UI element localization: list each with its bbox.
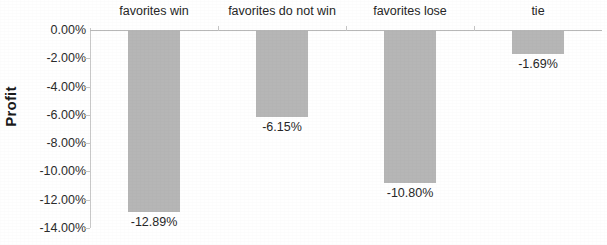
x-axis-tick-mark (474, 26, 475, 31)
bar (384, 30, 436, 183)
y-axis-tick-mark (85, 115, 90, 116)
y-axis-tick-label: -8.00% (12, 136, 86, 150)
y-axis-tick-label: -10.00% (12, 164, 86, 178)
y-axis-tick-mark (85, 87, 90, 88)
y-axis-tick-label: -6.00% (12, 108, 86, 122)
category-label: favorites do not win (228, 4, 336, 18)
category-label: favorites lose (373, 4, 447, 18)
bar-value-label: -12.89% (131, 215, 178, 229)
y-axis-tick-mark (85, 228, 90, 229)
y-axis-tick-label: 0.00% (12, 23, 86, 37)
plot-area: favorites win-12.89%favorites do not win… (90, 30, 602, 228)
y-axis-tick-label: -4.00% (12, 80, 86, 94)
x-axis-tick-mark (218, 26, 219, 31)
y-axis-tick-mark (85, 200, 90, 201)
x-axis-tick-mark (346, 26, 347, 31)
bar-value-label: -10.80% (387, 186, 434, 200)
bar-value-label: -6.15% (262, 120, 302, 134)
y-axis-tick-mark (85, 58, 90, 59)
bar-chart-figure: Profit 0.00%-2.00%-4.00%-6.00%-8.00%-10.… (0, 0, 607, 245)
bar-value-label: -1.69% (518, 57, 558, 71)
category-label: tie (531, 4, 544, 18)
y-axis-tick-label: -2.00% (12, 51, 86, 65)
y-axis-tick-label: -14.00% (12, 221, 86, 235)
y-axis-line (90, 28, 91, 228)
y-axis-tick-label: -12.00% (12, 193, 86, 207)
bar (128, 30, 180, 212)
bar (512, 30, 564, 54)
category-label: favorites win (119, 4, 188, 18)
y-axis-tick-mark (85, 171, 90, 172)
bar (256, 30, 308, 117)
y-axis-tick-labels: 0.00%-2.00%-4.00%-6.00%-8.00%-10.00%-12.… (8, 0, 86, 245)
y-axis-tick-mark (85, 143, 90, 144)
